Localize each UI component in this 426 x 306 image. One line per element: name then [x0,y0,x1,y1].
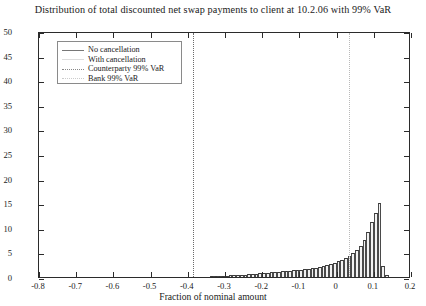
x-tick [188,272,189,277]
x-tick-label: -0.7 [68,281,82,291]
x-tick-label: 0.2 [405,281,416,291]
y-tick [39,230,44,231]
x-tick [299,33,300,38]
x-tick [39,272,40,277]
legend-item: Counterparty 99% VaR [62,64,177,74]
y-tick [39,254,44,255]
y-tick [404,205,409,206]
y-tick-label: 40 [0,76,12,86]
chart-title: Distribution of total discounted net swa… [0,4,426,15]
y-tick-label: 15 [0,199,12,209]
y-tick-label: 20 [0,175,12,185]
x-tick [337,33,338,38]
x-tick-label: -0.6 [106,281,120,291]
x-tick [411,272,412,277]
legend-label: Bank 99% VaR [88,74,138,84]
x-tick [262,33,263,38]
y-tick-label: 25 [0,150,12,160]
x-tick [225,272,226,277]
y-tick-label: 30 [0,125,12,135]
legend-item: Bank 99% VaR [62,74,177,84]
y-tick [404,33,409,34]
x-tick-label: -0.3 [217,281,231,291]
x-tick-label: -0.5 [143,281,157,291]
legend-line-swatch [62,56,84,63]
x-tick [262,272,263,277]
x-tick [76,272,77,277]
x-tick [113,33,114,38]
y-tick [39,131,44,132]
legend-item: No cancellation [62,45,177,55]
y-tick-label: 0 [0,273,12,283]
x-tick-label: -0.8 [31,281,45,291]
y-tick [404,181,409,182]
legend-box: No cancellationWith cancellationCounterp… [57,41,182,84]
y-tick [39,107,44,108]
legend-label: No cancellation [88,45,140,55]
x-tick [113,272,114,277]
y-tick [39,181,44,182]
x-tick [151,272,152,277]
histogram-bar [385,275,389,277]
counterparty-var-line [193,33,195,277]
x-tick [337,272,338,277]
y-tick [404,82,409,83]
y-tick [39,82,44,83]
y-tick [404,107,409,108]
x-tick [39,33,40,38]
y-tick [404,279,409,280]
y-tick [39,279,44,280]
x-tick-label: -0.1 [292,281,306,291]
y-tick-label: 10 [0,224,12,234]
legend-line-swatch [62,46,84,53]
x-tick [374,33,375,38]
y-tick [404,58,409,59]
y-tick-label: 50 [0,27,12,37]
legend-label: Counterparty 99% VaR [88,64,164,74]
chart-root: Distribution of total discounted net swa… [0,0,426,306]
x-tick-label: 0.1 [367,281,378,291]
bank-var-line [349,33,351,277]
y-tick [404,230,409,231]
x-tick-label: -0.4 [180,281,194,291]
y-tick-label: 45 [0,52,12,62]
y-tick [39,205,44,206]
y-tick [404,131,409,132]
y-tick [39,58,44,59]
legend-item: With cancellation [62,55,177,65]
x-tick [299,272,300,277]
x-tick [188,33,189,38]
y-tick [404,254,409,255]
x-tick [411,33,412,38]
x-tick [76,33,77,38]
y-tick [404,156,409,157]
x-axis-title: Fraction of nominal amount [0,291,426,302]
x-tick [374,272,375,277]
x-tick-label: -0.2 [254,281,268,291]
y-tick [39,156,44,157]
legend-line-swatch [62,65,84,72]
y-tick-label: 35 [0,101,12,111]
legend-label: With cancellation [88,55,146,65]
legend-line-swatch [62,75,84,82]
x-tick [151,33,152,38]
y-tick-label: 5 [0,248,12,258]
x-tick-label: 0 [333,281,337,291]
x-tick [225,33,226,38]
